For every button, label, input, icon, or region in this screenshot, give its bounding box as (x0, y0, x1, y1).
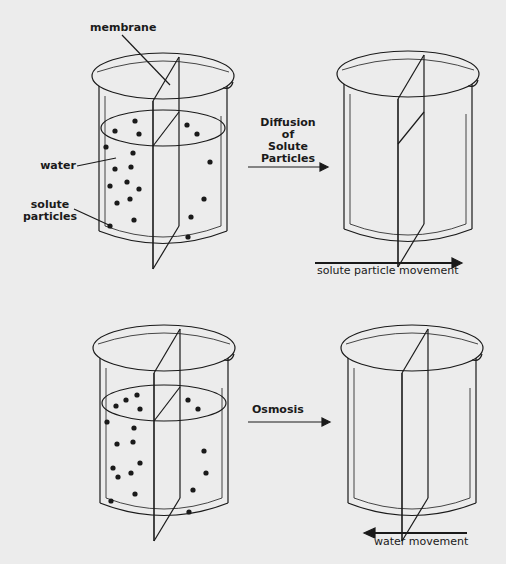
osmosis-arrow (248, 418, 330, 426)
membrane-label: membrane (90, 22, 150, 34)
solute-particles (103, 118, 212, 239)
diagram-canvas (0, 0, 506, 564)
water-leader (77, 158, 116, 166)
solute-movement-label: solute particle movement (317, 265, 467, 277)
water-movement-label: water movement (374, 536, 474, 548)
beaker-bottom-left (93, 325, 235, 541)
membrane-leader (122, 35, 170, 85)
beaker-bottom-right (341, 325, 483, 541)
diffusion-label-4: Particles (248, 153, 328, 165)
solute-label-line2: particles (20, 211, 80, 223)
osmosis-label: Osmosis (252, 404, 312, 416)
beaker-top-right (337, 51, 479, 267)
water-label: water (38, 160, 78, 172)
solute-particles (104, 392, 208, 514)
beaker-top-left (92, 53, 234, 269)
